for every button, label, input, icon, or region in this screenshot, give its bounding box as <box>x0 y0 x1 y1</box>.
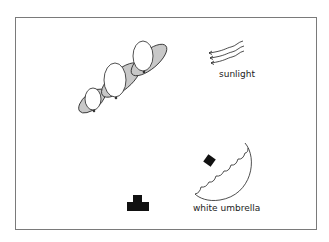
balloon-knot <box>115 97 117 99</box>
balloon-small <box>85 88 101 110</box>
sunlight-arrows-icon <box>209 41 244 65</box>
umbrella-label: white umbrella <box>193 203 260 213</box>
balloon-large <box>104 63 126 97</box>
flash-head-icon <box>203 154 216 167</box>
balloon-group <box>75 39 172 117</box>
umbrella-icon <box>195 143 251 201</box>
balloon-knot <box>93 110 95 112</box>
balloon-medium <box>133 41 153 71</box>
camera-icon <box>127 195 149 211</box>
sunlight-label: sunlight <box>219 69 255 79</box>
balloon-knot <box>143 71 145 73</box>
lighting-diagram <box>0 0 329 242</box>
